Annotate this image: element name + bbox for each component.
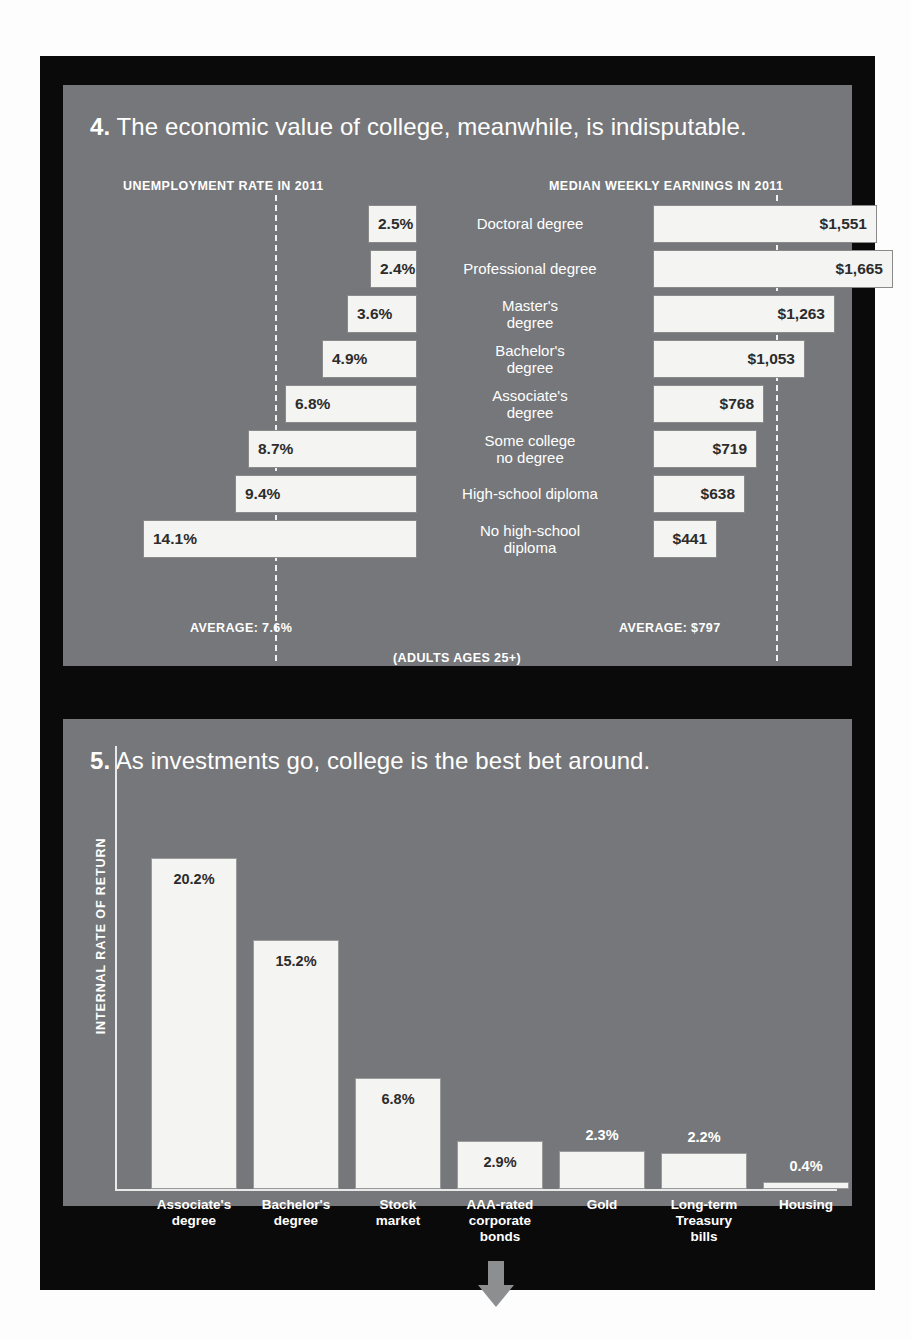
unemployment-bar-value: 9.4%: [245, 485, 280, 503]
unemployment-bar: 2.4%: [370, 250, 417, 288]
y-axis-line: [115, 746, 117, 1190]
unemployment-average-line: [275, 195, 277, 661]
education-category-label: High-school diploma: [437, 485, 623, 502]
investment-bar-value: 6.8%: [356, 1091, 440, 1107]
unemployment-bar: 14.1%: [143, 520, 417, 558]
chart-internal-rate-of-return: INTERNAL RATE OF RETURN 20.2%15.2%6.8%2.…: [63, 719, 852, 1206]
infographic-page: 4. The economic value of college, meanwh…: [0, 0, 911, 1340]
unemployment-bar-value: 6.8%: [295, 395, 330, 413]
earnings-bar: $441: [653, 520, 717, 558]
unemployment-bar-value: 3.6%: [357, 305, 392, 323]
earnings-bar: $638: [653, 475, 745, 513]
unemployment-bar-value: 2.5%: [378, 215, 413, 233]
black-frame: 4. The economic value of college, meanwh…: [40, 56, 875, 1290]
unemployment-bar: 3.6%: [347, 295, 417, 333]
unemployment-bar-value: 14.1%: [153, 530, 197, 548]
earnings-bar: $768: [653, 385, 764, 423]
investment-bar: 6.8%: [355, 1078, 441, 1189]
investment-bar-value: 2.2%: [661, 1129, 747, 1145]
earnings-bar: $1,551: [653, 205, 877, 243]
education-category-label: Professional degree: [437, 260, 623, 277]
investment-bar-value: 2.9%: [458, 1154, 542, 1170]
earnings-bar-value: $638: [701, 485, 735, 503]
investment-category-label: AAA-ratedcorporatebonds: [450, 1197, 550, 1245]
education-category-label: Some collegeno degree: [437, 432, 623, 466]
investment-bar: 20.2%: [151, 858, 237, 1189]
investment-bar: [559, 1151, 645, 1189]
panel-investment-returns: 5. As investments go, college is the bes…: [63, 719, 852, 1206]
investment-category-label: Stockmarket: [348, 1197, 448, 1229]
earnings-bar: $719: [653, 430, 757, 468]
unemployment-bar: 6.8%: [285, 385, 417, 423]
unemployment-bar: 8.7%: [248, 430, 417, 468]
unemployment-bar: 9.4%: [235, 475, 417, 513]
earnings-bar: $1,263: [653, 295, 835, 333]
y-axis-label: INTERNAL RATE OF RETURN: [94, 836, 108, 1036]
earnings-bar-value: $1,053: [748, 350, 795, 368]
arrow-stem: [488, 1261, 504, 1287]
investment-category-label: Bachelor'sdegree: [246, 1197, 346, 1229]
education-category-label: Doctoral degree: [437, 215, 623, 232]
panel-economic-value: 4. The economic value of college, meanwh…: [63, 85, 852, 666]
earnings-bar-value: $1,551: [820, 215, 867, 233]
investment-bar: [763, 1182, 849, 1189]
investment-category-label: Associate'sdegree: [144, 1197, 244, 1229]
adults-footnote: (ADULTS AGES 25+): [393, 651, 521, 665]
earnings-bar: $1,053: [653, 340, 805, 378]
investment-bar-value: 20.2%: [152, 871, 236, 887]
investment-bar-value: 15.2%: [254, 953, 338, 969]
unemployment-bar-value: 2.4%: [380, 260, 415, 278]
earnings-average-label: AVERAGE: $797: [619, 621, 721, 635]
unemployment-bar-value: 8.7%: [258, 440, 293, 458]
investment-bar-value: 2.3%: [559, 1127, 645, 1143]
education-category-label: Bachelor'sdegree: [437, 342, 623, 376]
unemployment-average-label: AVERAGE: 7.6%: [190, 621, 292, 635]
unemployment-bar-value: 4.9%: [332, 350, 367, 368]
investment-bar: [661, 1153, 747, 1189]
education-category-label: No high-schooldiploma: [437, 522, 623, 556]
earnings-bar-value: $1,263: [778, 305, 825, 323]
unemployment-bar: 4.9%: [322, 340, 417, 378]
investment-bar: 2.9%: [457, 1141, 543, 1189]
chart-unemployment-earnings: AVERAGE: 7.6% AVERAGE: $797 (ADULTS AGES…: [63, 85, 852, 666]
earnings-bar-value: $1,665: [836, 260, 883, 278]
earnings-bar-value: $768: [720, 395, 754, 413]
arrow-head: [478, 1285, 514, 1307]
investment-category-label: Housing: [756, 1197, 856, 1213]
x-axis-line: [115, 1189, 837, 1191]
earnings-bar: $1,665: [653, 250, 893, 288]
investment-bar-value: 0.4%: [763, 1158, 849, 1174]
earnings-bar-value: $719: [713, 440, 747, 458]
investment-category-label: Gold: [552, 1197, 652, 1213]
education-category-label: Master'sdegree: [437, 297, 623, 331]
earnings-bar-value: $441: [673, 530, 707, 548]
education-category-label: Associate'sdegree: [437, 387, 623, 421]
unemployment-bar: 2.5%: [368, 205, 417, 243]
investment-category-label: Long-termTreasurybills: [654, 1197, 754, 1245]
investment-bar: 15.2%: [253, 940, 339, 1189]
